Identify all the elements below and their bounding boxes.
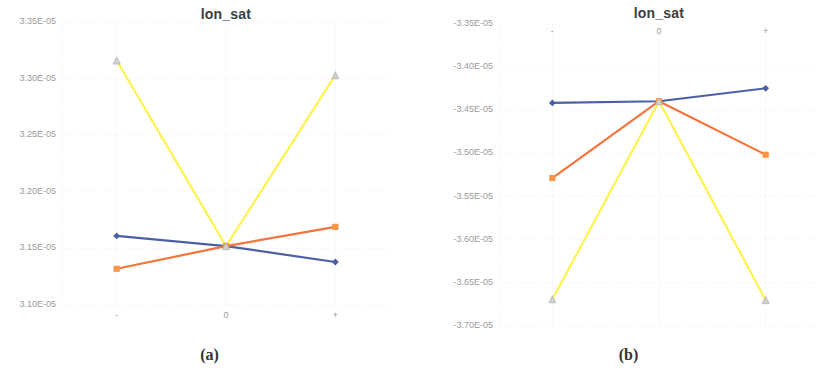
data-point-marker-square [114, 266, 120, 272]
x-axis-tick-label: - [542, 26, 562, 36]
chart-a-caption: (a) [0, 346, 419, 364]
data-point-marker-diamond [549, 100, 556, 107]
y-axis-tick-label: 3.15E-05 [19, 242, 56, 252]
chart-b-caption: (b) [419, 346, 838, 364]
data-point-marker-diamond [332, 259, 339, 266]
x-axis-tick-label: + [325, 310, 345, 320]
y-axis-tick-label: 3.20E-05 [19, 186, 56, 196]
y-axis-tick-label: 3.35E-05 [19, 16, 56, 26]
y-axis-tick-label: -3.65E-05 [453, 277, 493, 287]
chart-panel-a: 3.35E-053.30E-053.25E-053.20E-053.15E-05… [0, 0, 419, 368]
y-axis-tick-label: 3.25E-05 [19, 129, 56, 139]
data-point-marker-triangle [113, 57, 120, 64]
x-axis-tick-label: + [756, 26, 776, 36]
data-point-marker-diamond [113, 233, 120, 240]
chart-a-plot-area: 3.35E-053.30E-053.25E-053.20E-053.15E-05… [0, 0, 419, 332]
chart-b-plot-area: -3.35E-05-3.40E-05-3.45E-05-3.50E-05-3.5… [419, 0, 838, 332]
y-axis-tick-label: -3.40E-05 [453, 61, 493, 71]
y-axis-tick-label: -3.50E-05 [453, 147, 493, 157]
x-axis-tick-label: - [107, 310, 127, 320]
data-point-marker-diamond [762, 85, 769, 92]
y-axis-tick-label: -3.70E-05 [453, 320, 493, 330]
x-axis-tick-label: 0 [216, 310, 236, 320]
chart-panel-b: -3.35E-05-3.40E-05-3.45E-05-3.50E-05-3.5… [419, 0, 838, 368]
y-axis-tick-label: 3.30E-05 [19, 73, 56, 83]
chart-canvas [0, 0, 419, 332]
figure-row: 3.35E-053.30E-053.25E-053.20E-053.15E-05… [0, 0, 838, 368]
x-axis-tick-label: 0 [649, 26, 669, 36]
chart-b-title: lon_sat [579, 5, 739, 21]
y-axis-tick-label: 3.10E-05 [19, 299, 56, 309]
data-point-marker-square [763, 152, 769, 158]
y-axis-tick-label: -3.45E-05 [453, 104, 493, 114]
data-point-marker-square [549, 175, 555, 181]
data-point-marker-triangle [332, 72, 339, 79]
chart-a-title: lon_sat [146, 6, 306, 22]
y-axis-tick-label: -3.55E-05 [453, 191, 493, 201]
data-point-marker-square [332, 224, 338, 230]
y-axis-tick-label: -3.35E-05 [453, 18, 493, 28]
y-axis-tick-label: -3.60E-05 [453, 234, 493, 244]
